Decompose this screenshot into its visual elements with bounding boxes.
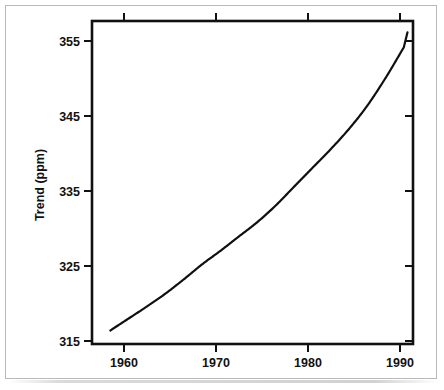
y-tick-label-325: 325	[59, 260, 80, 274]
trend-line-series	[110, 32, 407, 330]
chart-figure: 355 345 335 325 315 1960 1970 1980 1990 …	[0, 0, 444, 390]
y-tick-label-355: 355	[59, 35, 80, 49]
screenshot-root: 355 345 335 325 315 1960 1970 1980 1990 …	[0, 0, 444, 390]
x-tick-label-1970: 1970	[202, 356, 230, 370]
x-tick-label-1990: 1990	[386, 356, 414, 370]
x-tick-label-1980: 1980	[294, 356, 322, 370]
y-tick-label-345: 345	[59, 110, 80, 124]
y-tick-label-315: 315	[59, 335, 80, 349]
plot-frame	[92, 21, 413, 344]
x-tick-label-1960: 1960	[110, 356, 138, 370]
line-chart-svg: 355 345 335 325 315 1960 1970 1980 1990 …	[0, 0, 444, 390]
y-tick-label-335: 335	[59, 185, 80, 199]
y-axis-title: Trend (ppm)	[33, 149, 47, 221]
